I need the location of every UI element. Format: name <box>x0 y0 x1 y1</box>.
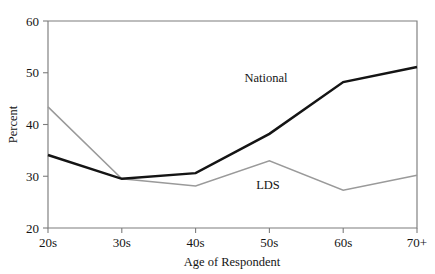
y-axis-title: Percent <box>6 105 20 143</box>
series-line-lds <box>48 107 417 190</box>
chart-canvas: 20 30 40 50 60 20s 30s 40s 50s 60s 70+ A… <box>0 0 435 274</box>
y-tick-label-60: 60 <box>26 14 39 29</box>
x-tick-label-60s: 60s <box>334 235 352 250</box>
x-tick-label-20s: 20s <box>39 235 57 250</box>
series-annotation-lds: LDS <box>256 178 280 192</box>
y-tick-label-20: 20 <box>26 221 39 236</box>
series-line-national <box>48 67 417 179</box>
x-tick-label-50s: 50s <box>260 235 278 250</box>
y-tick-label-40: 40 <box>26 117 39 132</box>
y-tick-label-50: 50 <box>26 65 39 80</box>
line-chart: 20 30 40 50 60 20s 30s 40s 50s 60s 70+ A… <box>0 0 435 274</box>
x-tick-label-40s: 40s <box>187 235 205 250</box>
plot-frame <box>48 21 417 228</box>
x-axis-title: Age of Respondent <box>184 255 281 269</box>
y-tick-label-30: 30 <box>26 169 39 184</box>
x-tick-label-30s: 30s <box>113 235 131 250</box>
series-annotation-national: National <box>244 71 288 85</box>
x-tick-label-70plus: 70+ <box>407 235 427 250</box>
